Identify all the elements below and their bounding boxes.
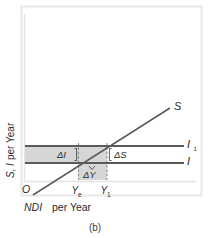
tick-label-ye-subscript: e <box>78 191 82 198</box>
x-axis-label-peryear: per Year <box>52 201 92 213</box>
y-axis-label-group: S, I per Year <box>5 122 16 178</box>
saving-curve-label: S <box>174 100 182 112</box>
delta-i-label: ΔI <box>56 149 66 160</box>
delta-s-label: ΔS <box>113 149 127 160</box>
y-axis-label-i: I <box>5 163 16 166</box>
x-axis-label-group: NDI per Year <box>24 201 92 213</box>
tick-label-y1-subscript: 1 <box>107 191 111 198</box>
origin-label: O <box>22 183 30 195</box>
y-axis-label-s: S, <box>5 169 16 178</box>
investment-i1-label: I <box>187 138 190 150</box>
figure-panel-b: S I 1 I ΔI ΔS ΔY O Y e Y 1 NDI per Year <box>0 0 208 238</box>
investment-i-label: I <box>187 155 190 167</box>
figure-caption: (b) <box>89 222 101 233</box>
economics-diagram: S I 1 I ΔI ΔS ΔY O Y e Y 1 NDI per Year <box>0 0 208 238</box>
delta-y-label: ΔY <box>82 169 96 180</box>
y-axis-label-peryear: per Year <box>5 122 16 160</box>
x-axis-label-ndi: NDI <box>24 201 42 213</box>
